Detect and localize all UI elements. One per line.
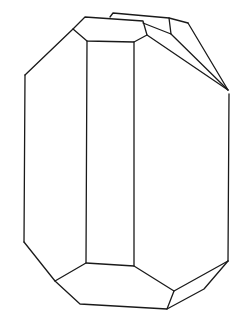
- edge-top-face: [73, 17, 147, 42]
- crystal-drawing: [0, 0, 247, 329]
- edge-front-left-vertical: [86, 41, 87, 263]
- edge-left-top-slant: [25, 29, 73, 75]
- edge-bottom-right-1: [174, 261, 228, 291]
- edge-back-inner-edge: [143, 18, 171, 34]
- edge-back-top-edge: [110, 13, 188, 23]
- edge-bottom-face: [55, 263, 174, 309]
- crystal-edges: [24, 13, 229, 309]
- edge-right-upper-slant-1: [147, 35, 228, 90]
- edge-right-vertical: [228, 94, 229, 261]
- edge-bottom-right-2: [167, 261, 228, 309]
- edge-left-vertical: [24, 75, 25, 242]
- edge-left-bottom-slant: [24, 242, 55, 281]
